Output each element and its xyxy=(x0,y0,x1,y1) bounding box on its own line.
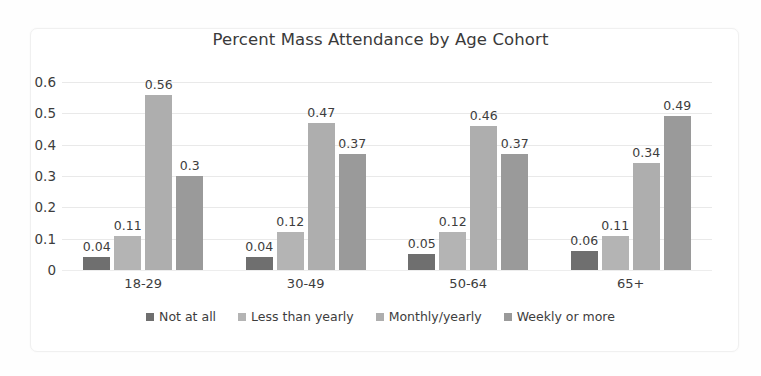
legend-label: Weekly or more xyxy=(517,309,615,324)
bar-value-label: 0.56 xyxy=(136,77,182,92)
chart-title: Percent Mass Attendance by Age Cohort xyxy=(0,30,761,49)
bar-value-label: 0.04 xyxy=(74,239,120,254)
y-tick-0.5: 0.5 xyxy=(35,105,56,121)
bar-group-30-49: 0.040.120.470.37 xyxy=(225,82,388,270)
legend-item-monthly-yearly[interactable]: Monthly/yearly xyxy=(376,309,482,324)
y-axis-tick-labels: 0.60.50.40.30.20.10 xyxy=(0,82,56,270)
category-label-18-29: 18-29 xyxy=(124,276,162,291)
bar-30-49-not-at-all[interactable]: 0.04 xyxy=(246,82,273,270)
y-tick-0.2: 0.2 xyxy=(35,199,56,215)
bar-rect xyxy=(633,163,660,270)
bar-rect xyxy=(439,232,466,270)
legend-swatch-icon xyxy=(238,313,246,321)
legend-swatch-icon xyxy=(376,313,384,321)
bar-30-49-monthly-yearly[interactable]: 0.47 xyxy=(308,82,335,270)
bar-rect xyxy=(83,257,110,270)
bar-value-label: 0.11 xyxy=(592,218,638,233)
bar-value-label: 0.34 xyxy=(623,145,669,160)
x-axis-category-labels: 18-2930-4950-6465+ xyxy=(62,276,712,296)
bar-rect xyxy=(339,154,366,270)
bar-value-label: 0.3 xyxy=(167,158,213,173)
bar-value-label: 0.05 xyxy=(399,236,445,251)
bar-65+-weekly-or-more[interactable]: 0.49 xyxy=(664,82,691,270)
y-tick-0.1: 0.1 xyxy=(35,231,56,247)
chart-legend: Not at allLess than yearlyMonthly/yearly… xyxy=(0,309,761,324)
category-label-65+: 65+ xyxy=(617,276,644,291)
bar-group-50-64: 0.050.120.460.37 xyxy=(387,82,550,270)
legend-label: Not at all xyxy=(159,309,216,324)
bar-group-18-29: 0.040.110.560.3 xyxy=(62,82,225,270)
bar-value-label: 0.12 xyxy=(267,214,313,229)
x-axis-baseline xyxy=(62,270,712,271)
bar-rect xyxy=(571,251,598,270)
y-tick-0: 0 xyxy=(47,262,56,278)
bar-groups: 0.040.110.560.30.040.120.470.370.050.120… xyxy=(62,82,712,270)
bar-50-64-weekly-or-more[interactable]: 0.37 xyxy=(501,82,528,270)
bar-50-64-monthly-yearly[interactable]: 0.46 xyxy=(470,82,497,270)
bar-rect xyxy=(501,154,528,270)
bar-value-label: 0.37 xyxy=(329,136,375,151)
bar-rect xyxy=(602,236,629,270)
legend-item-not-at-all[interactable]: Not at all xyxy=(146,309,216,324)
bar-18-29-monthly-yearly[interactable]: 0.56 xyxy=(145,82,172,270)
legend-item-less-than-yearly[interactable]: Less than yearly xyxy=(238,309,354,324)
y-tick-0.4: 0.4 xyxy=(35,137,56,153)
chart-screenshot: Percent Mass Attendance by Age Cohort 0.… xyxy=(0,0,761,376)
legend-swatch-icon xyxy=(504,313,512,321)
bar-50-64-not-at-all[interactable]: 0.05 xyxy=(408,82,435,270)
bar-65+-less-than-yearly[interactable]: 0.11 xyxy=(602,82,629,270)
bar-value-label: 0.06 xyxy=(561,233,607,248)
bar-18-29-weekly-or-more[interactable]: 0.3 xyxy=(176,82,203,270)
legend-item-weekly-or-more[interactable]: Weekly or more xyxy=(504,309,615,324)
bar-value-label: 0.47 xyxy=(298,105,344,120)
bar-18-29-not-at-all[interactable]: 0.04 xyxy=(83,82,110,270)
legend-label: Monthly/yearly xyxy=(389,309,482,324)
legend-label: Less than yearly xyxy=(251,309,354,324)
bar-value-label: 0.11 xyxy=(105,218,151,233)
bar-rect xyxy=(114,236,141,270)
bar-30-49-weekly-or-more[interactable]: 0.37 xyxy=(339,82,366,270)
bar-18-29-less-than-yearly[interactable]: 0.11 xyxy=(114,82,141,270)
bar-rect xyxy=(145,95,172,270)
y-tick-0.3: 0.3 xyxy=(35,168,56,184)
bar-rect xyxy=(277,232,304,270)
bar-value-label: 0.12 xyxy=(430,214,476,229)
category-label-30-49: 30-49 xyxy=(287,276,325,291)
bar-65+-not-at-all[interactable]: 0.06 xyxy=(571,82,598,270)
category-label-50-64: 50-64 xyxy=(449,276,487,291)
bar-rect xyxy=(664,116,691,270)
legend-swatch-icon xyxy=(146,313,154,321)
bar-rect xyxy=(176,176,203,270)
y-tick-0.6: 0.6 xyxy=(35,74,56,90)
bar-rect xyxy=(408,254,435,270)
bar-rect xyxy=(246,257,273,270)
bar-group-65+: 0.060.110.340.49 xyxy=(550,82,713,270)
bar-value-label: 0.37 xyxy=(492,136,538,151)
bar-value-label: 0.46 xyxy=(461,108,507,123)
bar-value-label: 0.04 xyxy=(236,239,282,254)
bar-value-label: 0.49 xyxy=(654,98,700,113)
